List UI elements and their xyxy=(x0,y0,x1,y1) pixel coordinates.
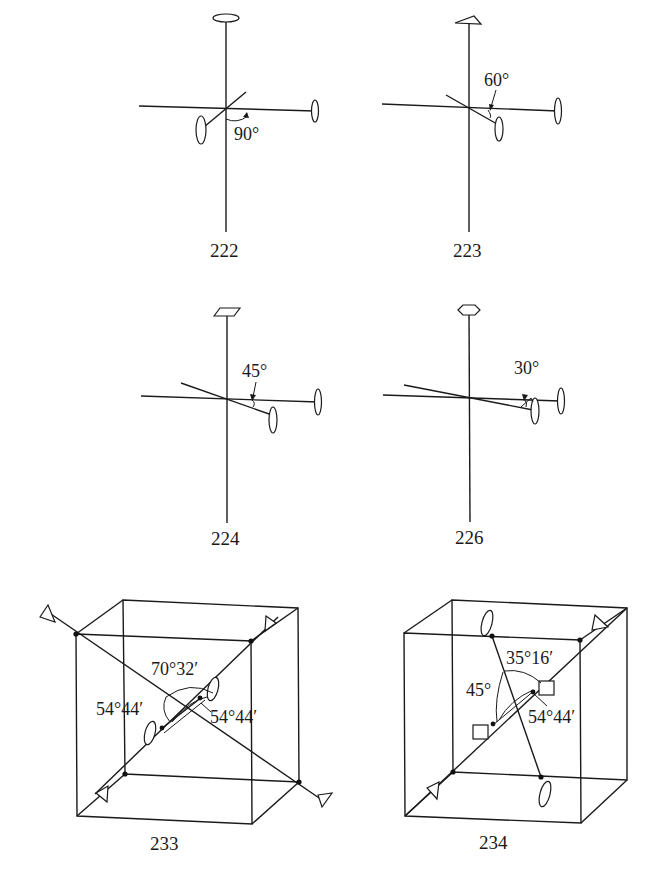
vertex-dot xyxy=(296,779,301,784)
twofold-symbol-icon xyxy=(531,398,539,424)
twofold-symbol-icon xyxy=(312,100,319,122)
vertex-dot xyxy=(577,637,582,642)
figure-label: 224 xyxy=(211,528,240,549)
angle-arc xyxy=(504,671,541,684)
figure-224: 45° 224 xyxy=(141,308,322,549)
fourfold-symbol-icon xyxy=(473,725,488,739)
vertex-dot xyxy=(73,631,78,636)
angle-arc xyxy=(164,697,170,722)
angle-label: 30° xyxy=(514,358,539,378)
figure-label: 226 xyxy=(455,527,484,548)
horizontal-axis xyxy=(141,396,318,402)
cube-edge xyxy=(252,782,299,824)
vertex-dot xyxy=(122,771,127,776)
figure-234: 35°16′ 45° 54°44′ 234 xyxy=(404,600,627,853)
angle-label: 70°32′ xyxy=(151,659,198,679)
cube-front-face xyxy=(404,633,581,823)
angle-label: 54°44′ xyxy=(210,707,257,727)
fourfold-symbol-icon xyxy=(214,308,240,316)
cube-edge xyxy=(581,780,627,823)
vertex-dot xyxy=(450,769,455,774)
threefold-symbol-icon xyxy=(455,16,481,24)
figure-223: 60° 223 xyxy=(382,16,562,261)
oblique-axis xyxy=(404,385,533,410)
fourfold-symbol-icon xyxy=(539,681,554,695)
figure-226: 30° 226 xyxy=(383,305,565,548)
oblique-axis xyxy=(446,95,497,124)
cube-edge xyxy=(404,600,452,633)
twofold-symbol-icon xyxy=(142,720,158,746)
angle-label: 60° xyxy=(484,70,509,90)
cube-edge xyxy=(76,600,123,634)
arrowhead-icon xyxy=(243,112,249,118)
twofold-symbol-icon xyxy=(196,116,206,144)
vertex-dot xyxy=(489,633,494,638)
angle-label: 54°44′ xyxy=(96,699,143,719)
angle-pointer xyxy=(534,694,547,706)
threefold-symbol-icon xyxy=(40,605,55,622)
horizontal-axis xyxy=(382,104,558,111)
twofold-symbol-icon xyxy=(269,407,277,433)
angle-arc xyxy=(488,110,491,118)
angle-label: 45° xyxy=(466,680,491,700)
sixfold-symbol-icon xyxy=(458,305,480,315)
threefold-symbol-icon xyxy=(265,616,276,631)
twofold-symbol-icon xyxy=(205,676,221,702)
twofold-symbol-icon xyxy=(558,388,565,414)
angle-label: 54°44′ xyxy=(528,707,575,727)
vertex-dot xyxy=(248,638,253,643)
twofold-symbol-icon xyxy=(495,117,503,141)
figure-label: 234 xyxy=(479,832,508,853)
angle-arc xyxy=(166,687,213,697)
angle-pointer xyxy=(491,90,496,107)
figure-label: 223 xyxy=(453,240,482,261)
angle-label: 45° xyxy=(242,361,267,381)
angle-label: 35°16′ xyxy=(506,648,553,668)
twofold-symbol-icon xyxy=(537,780,553,808)
vertical-axis xyxy=(469,310,470,522)
twofold-symbol-icon xyxy=(555,98,562,124)
angle-label: 90° xyxy=(234,124,259,144)
figure-label: 233 xyxy=(150,833,179,854)
twofold-symbol-icon xyxy=(479,609,495,637)
rotation-axis-combinations-diagram: 90° 222 60° 223 45° 224 xyxy=(0,0,663,877)
vertex-dot xyxy=(538,774,543,779)
threefold-symbol-icon xyxy=(427,782,439,799)
threefold-symbol-icon xyxy=(318,793,332,807)
axis-end-dot xyxy=(160,726,165,731)
arrowhead-icon xyxy=(489,104,494,111)
figure-233: 70°32′ 54°44′ 54°44′ 233 xyxy=(40,600,332,854)
twofold-symbol-icon xyxy=(213,14,239,22)
axis-end-dot xyxy=(491,722,496,727)
figure-222: 90° 222 xyxy=(139,14,319,261)
angle-arc xyxy=(252,400,254,407)
threefold-symbol-icon xyxy=(96,786,108,802)
figure-label: 222 xyxy=(210,240,239,261)
twofold-symbol-icon xyxy=(315,389,322,415)
